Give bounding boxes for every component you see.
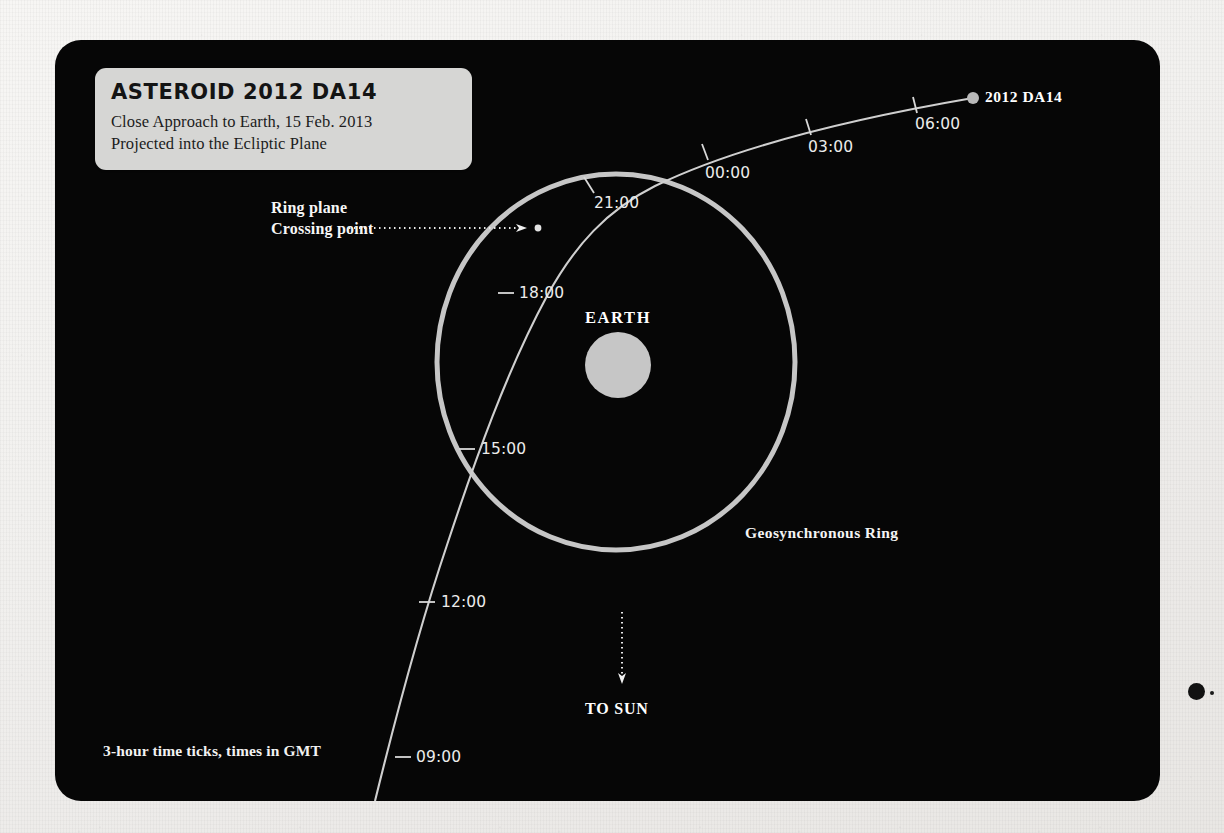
ring-crossing-point-marker xyxy=(535,225,542,232)
tick-06-00 xyxy=(913,97,917,113)
title-card: ASTEROID 2012 DA14 Close Approach to Ear… xyxy=(95,68,472,170)
earth-label: EARTH xyxy=(585,308,651,328)
time-tick-label-06-00: 06:00 xyxy=(915,115,960,133)
time-tick-label-03-00: 03:00 xyxy=(808,138,853,156)
ring-crossing-label-line-1: Ring plane xyxy=(271,197,374,218)
earth-body xyxy=(585,332,651,398)
geosynchronous-ring-label: Geosynchronous Ring xyxy=(745,524,898,542)
ring-crossing-label: Ring plane Crossing point xyxy=(271,197,374,239)
page-title: ASTEROID 2012 DA14 xyxy=(111,80,456,105)
asteroid-label: 2012 DA14 xyxy=(985,88,1062,106)
time-tick-label-12-00: 12:00 xyxy=(441,593,486,611)
asteroid-marker xyxy=(967,92,979,104)
tick-00-00 xyxy=(702,144,708,160)
time-tick-label-21-00: 21:00 xyxy=(594,194,639,212)
title-subtitle-line-1: Close Approach to Earth, 15 Feb. 2013 xyxy=(111,111,456,133)
tick-21-00 xyxy=(584,177,594,193)
ring-crossing-label-line-2: Crossing point xyxy=(271,218,374,239)
time-tick-label-09-00: 09:00 xyxy=(416,748,461,766)
time-tick-label-18-00: 18:00 xyxy=(519,284,564,302)
time-tick-label-00-00: 00:00 xyxy=(705,164,750,182)
trajectory-time-ticks xyxy=(395,97,917,757)
paper-smudge-dot xyxy=(1188,683,1205,700)
title-subtitle-line-2: Projected into the Ecliptic Plane xyxy=(111,133,456,155)
paper-smudge-dot-small xyxy=(1210,691,1214,695)
poster-page: ASTEROID 2012 DA14 Close Approach to Ear… xyxy=(0,0,1224,833)
time-tick-label-15-00: 15:00 xyxy=(481,440,526,458)
orbit-diagram-panel: ASTEROID 2012 DA14 Close Approach to Ear… xyxy=(55,40,1160,801)
footnote-label: 3-hour time ticks, times in GMT xyxy=(103,742,321,760)
to-sun-label: TO SUN xyxy=(585,700,649,718)
